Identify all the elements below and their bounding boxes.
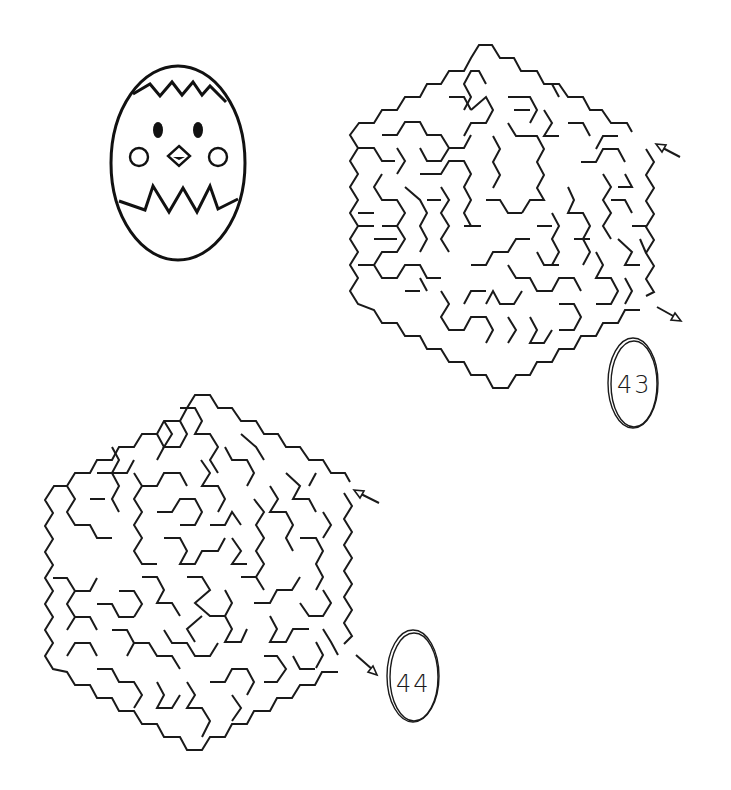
maze-44 [0,0,731,790]
maze-44-end-arrow-icon [356,655,377,675]
maze-44-start-arrow-icon [354,490,379,503]
maze-44-number: 44 [396,670,431,698]
maze-44-walls [45,395,352,750]
